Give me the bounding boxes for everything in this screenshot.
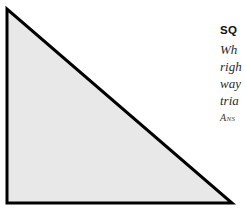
figure-page: SQ Wh righ way tria Ans [0,0,245,209]
puzzle-body-line: way [220,75,245,92]
puzzle-body-line: righ [220,58,245,75]
puzzle-heading: SQ [220,24,245,37]
puzzle-body: Wh righ way tria Ans [220,41,245,126]
puzzle-text-column: SQ Wh righ way tria Ans [220,24,245,126]
puzzle-answer-line: Ans [220,109,245,126]
puzzle-body-line: Wh [220,41,245,58]
right-triangle-shape [7,9,232,203]
right-triangle-figure [0,0,245,209]
puzzle-body-line: tria [220,92,245,109]
